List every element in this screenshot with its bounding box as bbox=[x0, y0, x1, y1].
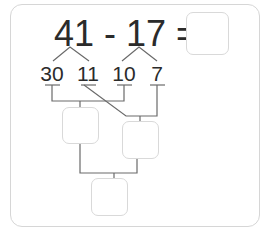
part-30: 30 bbox=[40, 63, 63, 85]
tens-difference-box[interactable] bbox=[62, 107, 99, 144]
part-7: 7 bbox=[151, 63, 163, 85]
sum-box[interactable] bbox=[91, 178, 128, 216]
part-11: 11 bbox=[77, 63, 99, 85]
part-10: 10 bbox=[112, 63, 135, 85]
connector-lines bbox=[0, 0, 272, 234]
ones-difference-box[interactable] bbox=[122, 121, 159, 159]
